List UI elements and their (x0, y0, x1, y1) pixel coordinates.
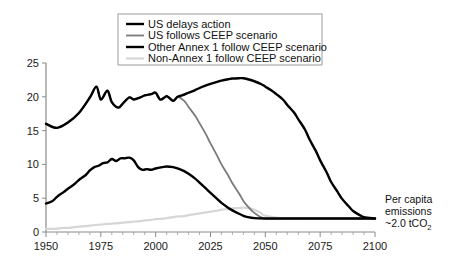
y-tick-label: 20 (27, 91, 39, 103)
chart-legend: US delays actionUS follows CEEP scenario… (118, 14, 327, 65)
x-axis: 1950197520002025205020752100 (34, 232, 387, 252)
y-tick-label: 10 (27, 158, 39, 170)
legend-label: Other Annex 1 follow CEEP scenario (148, 41, 327, 53)
y-tick-label: 15 (27, 125, 39, 137)
series-line (46, 158, 375, 219)
per-capita-annotation: Per capitaemissions~2.0 tCO2 (385, 193, 432, 232)
legend-label: US follows CEEP scenario (148, 29, 277, 41)
x-tick-label: 1975 (89, 240, 113, 252)
annotation-line-2: emissions (385, 205, 432, 217)
chart-canvas: 0510152025 1950197520002025205020752100 … (0, 0, 452, 268)
annotation-line-1: Per capita (385, 193, 432, 205)
series-line (46, 78, 375, 218)
y-tick-label: 5 (33, 192, 39, 204)
x-tick-label: 2100 (363, 240, 387, 252)
series-lines (46, 78, 375, 229)
y-axis: 0510152025 (27, 57, 46, 238)
x-tick-label: 2000 (143, 240, 167, 252)
x-tick-label: 2050 (253, 240, 277, 252)
legend-label: US delays action (148, 18, 231, 30)
series-line (46, 87, 375, 219)
x-tick-label: 2025 (198, 240, 222, 252)
x-tick-label: 2075 (308, 240, 332, 252)
y-tick-label: 0 (33, 226, 39, 238)
legend-label: Non-Annex 1 follow CEEP scenario (148, 52, 321, 64)
y-tick-label: 25 (27, 57, 39, 69)
x-tick-label: 1950 (34, 240, 58, 252)
annotation-line-3: ~2.0 tCO2 (385, 217, 432, 232)
emissions-line-chart: 0510152025 1950197520002025205020752100 … (0, 0, 452, 268)
